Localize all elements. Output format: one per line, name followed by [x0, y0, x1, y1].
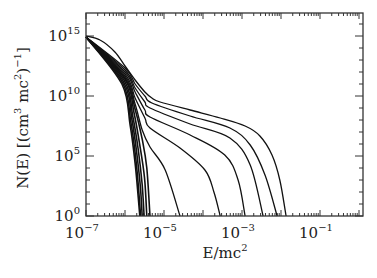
axis-ticks [86, 13, 363, 216]
y-tick-label: 100 [55, 205, 80, 225]
x-tick-label: 10−7 [65, 222, 99, 242]
x-tick-labels: 10−710−510−310−1 [65, 222, 333, 242]
plot-frame [86, 13, 363, 216]
y-tick-label: 1015 [48, 25, 80, 45]
x-tick-label: 10−3 [221, 222, 255, 242]
x-tick-label: 10−5 [143, 222, 177, 242]
spectrum-curves [86, 36, 286, 216]
y-axis-label: N(E) [(cm3 mc2)−1] [12, 47, 32, 189]
x-tick-label: 10−1 [299, 222, 333, 242]
x-axis-label: E/mc2 [202, 242, 247, 262]
y-tick-label: 105 [55, 145, 80, 165]
y-tick-label: 1010 [48, 85, 80, 105]
spectrum-chart: 10−710−510−310−1 10010510101015 E/mc2 N(… [0, 0, 377, 278]
spectrum-curve [86, 37, 220, 216]
y-tick-labels: 10010510101015 [48, 25, 80, 225]
